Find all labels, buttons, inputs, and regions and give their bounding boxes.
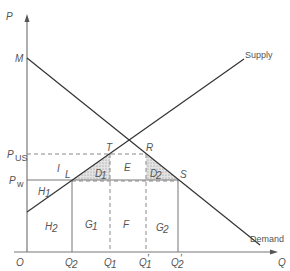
area-h1-subscript: 1: [45, 188, 51, 199]
demand-curve: [27, 58, 260, 245]
x-axis-arrow-icon: [270, 250, 278, 255]
area-g1-subscript: 1: [92, 221, 98, 232]
point-l-label: L: [65, 169, 71, 180]
y-axis-label: P: [6, 11, 13, 22]
p-us-label: P: [7, 149, 14, 160]
area-d1-subscript: 1: [101, 170, 107, 181]
p-w-subscript: w: [16, 179, 24, 189]
point-s-label: S: [180, 169, 187, 180]
point-t-label: T: [106, 142, 113, 153]
area-d2-subscript: 2: [155, 170, 162, 181]
origin-label: O: [16, 257, 24, 268]
supply-label: Supply: [245, 50, 273, 60]
area-e-label: E: [124, 162, 131, 173]
area-h2-subscript: 2: [51, 223, 58, 234]
m-label: M: [15, 53, 24, 64]
area-i-label: I: [57, 163, 60, 174]
supply-demand-diagram: P Q O M P US P w Supply Demand L T R S I…: [0, 0, 290, 271]
point-r-label: R: [146, 142, 153, 153]
area-f-label: F: [123, 219, 130, 230]
supply-curve: [27, 59, 244, 212]
area-g2-subscript: 2: [162, 224, 169, 235]
p-us-subscript: US: [15, 153, 28, 163]
q1-subscript: 1: [111, 259, 117, 270]
demand-label: Demand: [250, 234, 284, 244]
p-w-label: P: [9, 175, 16, 186]
y-axis-arrow-icon: [25, 14, 30, 22]
x-axis-label: Q: [278, 257, 286, 268]
q2-subscript: 2: [71, 259, 78, 270]
